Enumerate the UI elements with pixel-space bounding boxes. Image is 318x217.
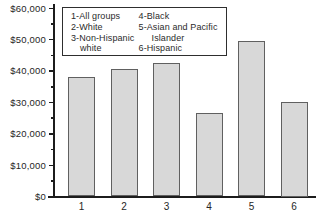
legend-entry: 5-Asian and Pacific Islander [139,22,224,44]
x-tick-label: 3 [158,201,176,213]
legend: 1-All groups2-White3-Non-Hispanic white … [62,7,227,56]
legend-column-left: 1-All groups2-White3-Non-Hispanic white [71,11,139,55]
y-tick-label: $50,000 [0,34,46,45]
y-minor-tick [51,117,55,119]
x-tick-label: 5 [243,201,261,213]
y-tick-label: $40,000 [0,65,46,76]
legend-entry: 6-Hispanic [139,43,224,54]
bar-3 [153,63,180,197]
y-minor-tick [51,23,55,25]
y-minor-tick [51,86,55,88]
x-tick-label: 1 [73,201,91,213]
legend-entry: 1-All groups [71,11,139,22]
y-tick-label: $0 [0,191,46,202]
y-tick-label: $10,000 [0,160,46,171]
y-major-tick [49,196,55,198]
bar-1 [68,77,95,196]
legend-entry: 4-Black [139,11,224,22]
x-tick-label: 2 [115,201,133,213]
bar-6 [281,102,308,196]
y-major-tick [49,8,55,10]
y-major-tick [49,39,55,41]
y-tick-label: $20,000 [0,128,46,139]
bar-chart: 1-All groups2-White3-Non-Hispanic white … [0,0,318,217]
x-tick-label: 6 [285,201,303,213]
y-minor-tick [51,55,55,57]
y-minor-tick [51,180,55,182]
bar-5 [238,41,265,197]
y-major-tick [49,165,55,167]
y-tick-label: $60,000 [0,3,46,14]
legend-column-right: 4-Black5-Asian and Pacific Islander6-His… [139,11,224,55]
y-major-tick [49,102,55,104]
x-tick-label: 4 [200,201,218,213]
bar-4 [196,113,223,196]
y-minor-tick [51,149,55,151]
legend-entry: 2-White [71,22,139,33]
bar-2 [111,69,138,196]
y-major-tick [49,70,55,72]
legend-entry: 3-Non-Hispanic white [71,33,139,55]
y-major-tick [49,133,55,135]
y-tick-label: $30,000 [0,97,46,108]
